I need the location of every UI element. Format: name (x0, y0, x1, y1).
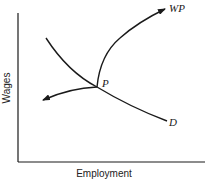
x-axis-label: Employment (76, 168, 132, 179)
diagram-canvas: WP P D Employment Wages (0, 0, 205, 189)
wp-curve (97, 9, 165, 87)
label-d: D (168, 116, 177, 128)
y-axis-label: Wages (1, 73, 12, 104)
label-wp: WP (169, 2, 185, 14)
left-arrow-curve (43, 87, 97, 100)
label-p: P (101, 77, 109, 89)
